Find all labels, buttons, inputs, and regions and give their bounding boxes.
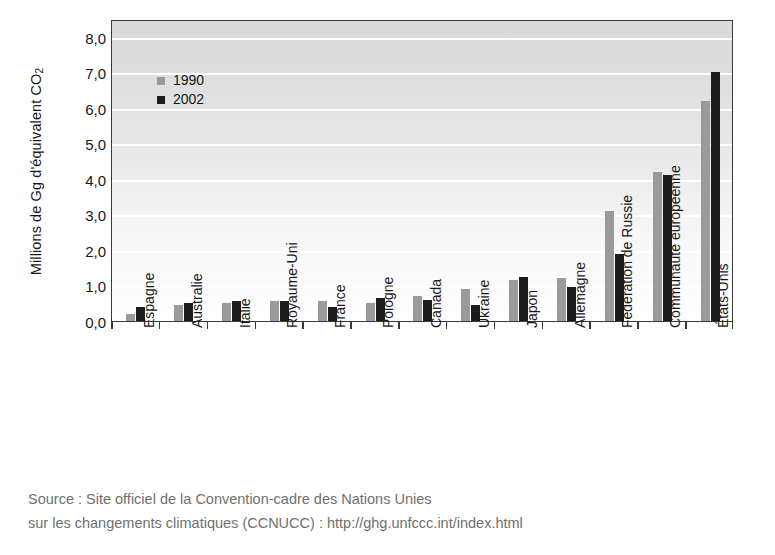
x-category-label: Ukraine [476, 280, 492, 328]
y-axis-title: Millions de Gg d'équivalent CO2 [22, 20, 52, 322]
x-category-label: Pologne [380, 277, 396, 328]
x-category-label: Japon [524, 290, 540, 328]
source-line-1: Source : Site officiel de la Convention-… [28, 487, 748, 511]
source-note: Source : Site officiel de la Convention-… [28, 487, 748, 535]
y-tick-label: 4,0 [85, 171, 106, 188]
x-category-label: Italie [237, 298, 253, 328]
bar-1990[interactable] [270, 301, 279, 321]
bar-group[interactable] [399, 21, 447, 321]
y-axis-title-subscript: 2 [35, 67, 46, 73]
y-tick-label: 2,0 [85, 242, 106, 259]
bar-group[interactable] [495, 21, 543, 321]
x-category-label: Allemagne [572, 262, 588, 328]
bar-1990[interactable] [366, 303, 375, 321]
bar-1990[interactable] [701, 101, 710, 321]
y-axis-title-text: Millions de Gg d'équivalent CO2 [29, 67, 46, 274]
x-category-label: Royaume-Uni [284, 242, 300, 328]
chart-figure: Millions de Gg d'équivalent CO2 0,01,02,… [0, 0, 775, 555]
y-axis-tick-labels: 0,01,02,03,04,05,06,07,08,0 [56, 20, 106, 322]
bar-1990[interactable] [509, 280, 518, 321]
x-axis-category-labels: EspagneAustralieItalieRoyaume-UniFranceP… [111, 328, 733, 478]
x-category-label: Espagne [141, 273, 157, 328]
x-category-label: Fédération de Russie [619, 195, 635, 328]
bar-1990[interactable] [174, 305, 183, 321]
bar-1990[interactable] [222, 303, 231, 321]
x-category-label: Canada [428, 279, 444, 328]
bar-group[interactable] [447, 21, 495, 321]
y-tick-label: 1,0 [85, 278, 106, 295]
y-tick-label: 7,0 [85, 65, 106, 82]
bar-1990[interactable] [605, 211, 614, 321]
bar-1990[interactable] [461, 289, 470, 321]
bar-1990[interactable] [318, 301, 327, 321]
bar-1990[interactable] [557, 278, 566, 321]
source-line-2: sur les changements climatiques (CCNUCC)… [28, 511, 748, 535]
x-category-label: France [332, 284, 348, 328]
y-axis-title-main: Millions de Gg d'équivalent CO [29, 73, 45, 275]
y-tick-label: 3,0 [85, 207, 106, 224]
y-tick-label: 6,0 [85, 100, 106, 117]
x-category-label: Australie [189, 274, 205, 328]
bar-group[interactable] [208, 21, 256, 321]
bar-1990[interactable] [126, 314, 135, 321]
bar-1990[interactable] [653, 172, 662, 321]
bar-group[interactable] [303, 21, 351, 321]
y-tick-label: 0,0 [85, 314, 106, 331]
y-tick-label: 8,0 [85, 29, 106, 46]
y-tick-label: 5,0 [85, 136, 106, 153]
x-category-label: Communauté européenne [667, 165, 683, 328]
x-category-label: États-Unis [715, 263, 731, 328]
bar-1990[interactable] [413, 296, 422, 321]
bar-groups [112, 21, 732, 321]
